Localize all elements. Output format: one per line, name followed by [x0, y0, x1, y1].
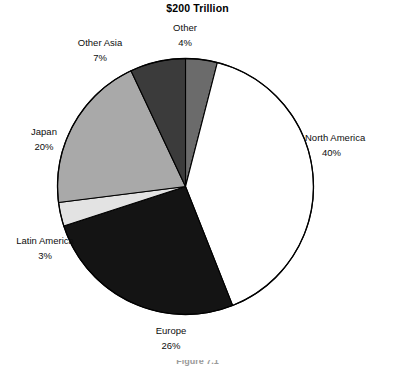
slice-label-japan: Japan 20% [8, 126, 80, 153]
slice-label-latin-america-name: Latin America [0, 235, 91, 248]
slice-label-north-america: North America 40% [305, 132, 393, 159]
slice-label-other-asia-percent: 7% [58, 52, 142, 65]
slice-label-latin-america-percent: 3% [0, 250, 91, 263]
slice-label-japan-name: Japan [8, 126, 80, 139]
slice-label-japan-percent: 20% [8, 141, 80, 154]
slice-label-other-asia-name: Other Asia [58, 37, 142, 50]
slice-label-north-america-name: North America [305, 132, 393, 145]
slice-label-europe-name: Europe [128, 325, 214, 338]
pie-slice-group [58, 59, 314, 315]
slice-label-other-asia: Other Asia 7% [58, 37, 142, 64]
figure-caption-clip: Figure 7.1 [0, 360, 395, 366]
slice-label-north-america-percent: 40% [305, 147, 393, 160]
slice-label-other-name: Other [145, 22, 225, 35]
slice-label-other: Other 4% [145, 22, 225, 49]
slice-label-latin-america: Latin America 3% [0, 235, 91, 262]
pie-chart-figure: $200 Trillion Other 4% North America 40%… [0, 0, 395, 366]
figure-caption: Figure 7.1 [0, 360, 395, 366]
slice-label-europe-percent: 26% [128, 340, 214, 353]
slice-label-europe: Europe 26% [128, 325, 214, 352]
slice-label-other-percent: 4% [145, 37, 225, 50]
